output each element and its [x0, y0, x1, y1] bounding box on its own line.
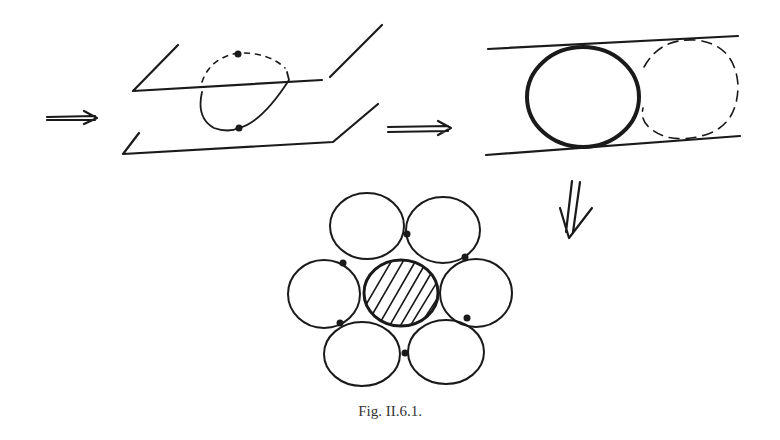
disk-right — [440, 259, 512, 327]
contact-point-bottom — [236, 125, 243, 132]
bold-circle — [527, 47, 639, 147]
figure-caption: Fig. II.6.1. — [0, 403, 780, 420]
contact-point-top — [235, 51, 242, 58]
sphere-between-planes-panel — [123, 25, 382, 154]
figure-canvas — [0, 0, 780, 440]
disk-bottom-left — [324, 322, 400, 386]
disk-left — [288, 260, 360, 328]
arrow-middle-icon — [388, 121, 451, 135]
circle-in-strip-panel — [486, 36, 740, 155]
arrow-down-icon — [560, 181, 592, 238]
contact-points — [337, 231, 471, 357]
disk-bottom-right — [408, 320, 484, 384]
disk-top-right — [406, 197, 480, 263]
arrow-left-icon — [47, 111, 97, 124]
disk-top-left — [330, 193, 404, 259]
hexagonal-packing-panel — [288, 193, 512, 386]
central-hatched-disk — [364, 260, 438, 326]
